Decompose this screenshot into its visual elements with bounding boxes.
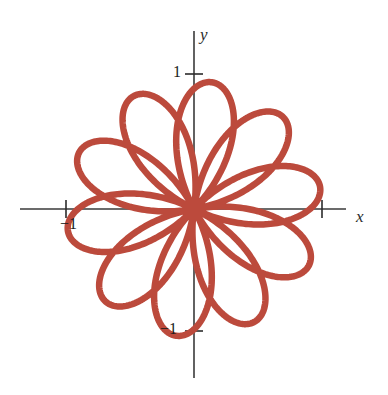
tick-label-x-negative-one: −1 (60, 216, 77, 232)
x-axis-label: x (356, 208, 364, 225)
y-axis-label: y (200, 26, 208, 43)
polar-rose-figure: y x 1 −1 −1 (0, 0, 388, 395)
plot-canvas (0, 0, 388, 395)
tick-label-y-positive-one: 1 (173, 64, 181, 80)
tick-label-y-negative-one: −1 (160, 321, 177, 337)
